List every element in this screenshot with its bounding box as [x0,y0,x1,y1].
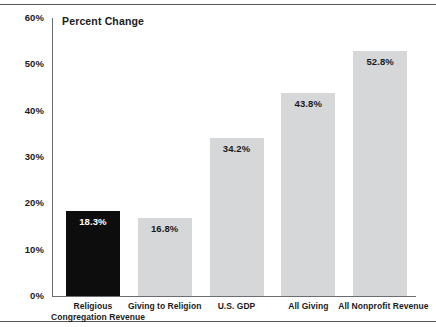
y-axis-tick-label: 40% [0,106,44,116]
y-axis-tick-label: 50% [0,59,44,69]
y-axis-tick-label: 30% [0,152,44,162]
y-axis-tick-label: 20% [0,198,44,208]
x-axis-category-label: All Nonprofit Revenue [338,301,422,312]
chart-title: Percent Change [62,16,144,27]
y-axis-tick-label: 10% [0,245,44,255]
y-axis-tick-label: 60% [0,13,44,23]
bar-value-label: 34.2% [210,144,264,154]
bar-value-label: 18.3% [66,217,120,227]
y-axis-tick-label: 0% [0,291,44,301]
bar-value-label: 43.8% [281,99,335,109]
bar[interactable]: 34.2% [210,138,264,296]
y-axis-line [52,18,53,296]
plot-area: Percent Change 60%50%40%30%20%10%0% 18.3… [0,0,436,327]
bar[interactable]: 52.8% [353,51,407,296]
x-axis-label-line: All Nonprofit Revenue [338,301,422,312]
bar[interactable]: 18.3% [66,211,120,296]
bar-value-label: 16.8% [138,224,192,234]
x-axis-line [52,296,416,297]
x-axis-label-line: Congregation Revenue [51,312,135,323]
chart-figure: Percent Change 60%50%40%30%20%10%0% 18.3… [0,0,436,327]
bar-value-label: 52.8% [353,57,407,67]
bar[interactable]: 16.8% [138,218,192,296]
bar[interactable]: 43.8% [281,93,335,296]
